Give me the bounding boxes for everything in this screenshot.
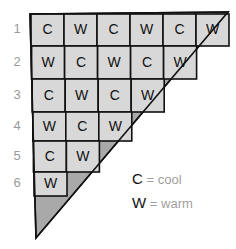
cell-cool: C <box>33 148 66 164</box>
cell-warm: W <box>99 118 132 134</box>
cell-warm: W <box>66 148 99 164</box>
cell-warm: W <box>130 21 163 37</box>
legend-symbol: C <box>132 170 143 187</box>
triangle-grid-diagram: 123456 CWCWCWWCWCWCWCWWCWCWW C = cool W … <box>0 0 236 249</box>
legend-meaning: cool <box>158 172 182 187</box>
cells-group <box>31 14 229 196</box>
legend-cool: C = cool <box>132 170 182 187</box>
cell-cool: C <box>131 54 164 70</box>
cell-warm: W <box>33 118 66 134</box>
cell-warm: W <box>64 21 97 37</box>
cell-cool: C <box>65 54 98 70</box>
row-label: 6 <box>10 175 24 190</box>
row-label: 1 <box>10 21 24 36</box>
cell-warm: W <box>131 87 164 103</box>
cell-warm: W <box>196 21 229 37</box>
cell-cool: C <box>31 21 64 37</box>
cell-warm: W <box>34 175 67 191</box>
row-label: 2 <box>10 54 24 69</box>
cell-warm: W <box>32 54 65 70</box>
cell-cool: C <box>98 87 131 103</box>
legend-symbol: W <box>132 194 146 211</box>
cell-warm: W <box>164 54 197 70</box>
cell-cool: C <box>32 87 65 103</box>
cell-warm: W <box>98 54 131 70</box>
cell-cool: C <box>66 118 99 134</box>
cell-cool: C <box>163 21 196 37</box>
row-label: 4 <box>10 118 24 133</box>
legend-meaning: warm <box>161 196 193 211</box>
row-label: 3 <box>10 87 24 102</box>
row-label: 5 <box>10 148 24 163</box>
legend-warm: W = warm <box>132 194 193 211</box>
cell-warm: W <box>65 87 98 103</box>
cell-cool: C <box>97 21 130 37</box>
